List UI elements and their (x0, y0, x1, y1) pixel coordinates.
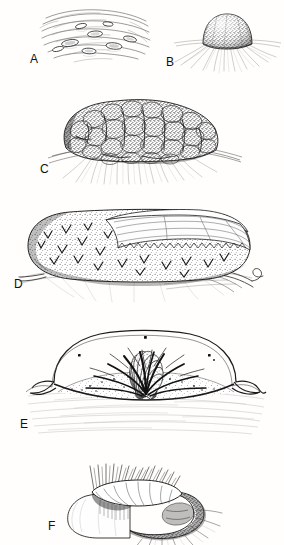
panel-label-d: D (14, 277, 23, 291)
panel-label-e: E (20, 417, 28, 431)
panel-b (170, 4, 284, 76)
panel-a (30, 2, 156, 72)
panel-c-figure (46, 88, 246, 188)
panel-c (46, 88, 246, 188)
panel-d (14, 198, 276, 306)
panel-label-c: C (40, 162, 49, 176)
panel-a-figure (30, 2, 156, 72)
illustration-plate: A (0, 0, 284, 545)
panel-f-figure (56, 462, 232, 544)
panel-d-figure (14, 198, 276, 306)
panel-e (24, 318, 268, 440)
panel-label-f: F (48, 519, 56, 533)
panel-f (56, 462, 232, 544)
panel-label-a: A (30, 52, 38, 66)
panel-e-figure (24, 318, 268, 440)
panel-b-figure (170, 4, 284, 76)
panel-label-b: B (166, 55, 174, 69)
